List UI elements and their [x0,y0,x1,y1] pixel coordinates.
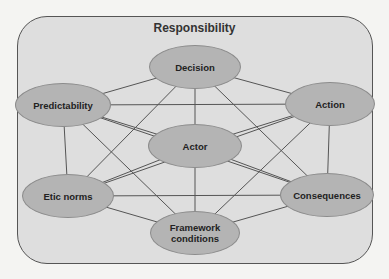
node-label: Action [315,99,345,110]
node-consequences: Consequences [280,173,374,217]
diagram-title: Responsibility [0,21,389,35]
node-action: Action [285,82,375,126]
node-label: Predictability [33,100,93,111]
node-predictability: Predictability [15,83,111,127]
node-etic-norms: Etic norms [22,174,114,218]
node-label: Consequences [293,190,361,201]
node-actor: Actor [148,124,242,168]
node-label: Actor [183,141,208,152]
node-decision: Decision [149,45,241,89]
node-label: Etic norms [43,191,92,202]
node-label: Decision [175,62,215,73]
node-label: Framework conditions [165,222,225,244]
node-framework-conditions: Framework conditions [150,211,240,255]
